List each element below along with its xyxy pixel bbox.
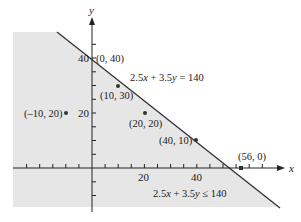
label-m10-20: (–10, 20) bbox=[24, 108, 63, 120]
inequality-graph: 20 40 x 40 20 y (0, 40) (10 bbox=[0, 0, 301, 222]
label-10-30: (10, 30) bbox=[100, 90, 134, 102]
inequality-label: 2.5x + 3.5y ≤ 140 bbox=[153, 188, 227, 199]
label-20-20: (20, 20) bbox=[129, 118, 163, 130]
point-40-10 bbox=[194, 138, 198, 142]
line-equation: 2.5x + 3.5y = 140 bbox=[130, 72, 204, 83]
label-0-40: (0, 40) bbox=[96, 53, 124, 65]
point-56-0 bbox=[239, 166, 243, 170]
label-56-0: (56, 0) bbox=[238, 151, 266, 163]
y-axis-arrow-icon bbox=[89, 17, 95, 25]
point-10-30 bbox=[116, 84, 120, 88]
x-tick-label-40: 40 bbox=[191, 171, 203, 183]
y-tick-label-40: 40 bbox=[78, 52, 90, 64]
point-m10-20 bbox=[64, 111, 68, 115]
y-axis-label: y bbox=[88, 4, 94, 16]
point-20-20 bbox=[143, 111, 147, 115]
y-tick-label-20: 20 bbox=[78, 107, 90, 119]
x-tick-label-20: 20 bbox=[138, 171, 150, 183]
x-axis-label: x bbox=[288, 162, 294, 174]
x-axis-arrow-icon bbox=[277, 165, 285, 171]
label-40-10: (40, 10) bbox=[159, 135, 193, 147]
